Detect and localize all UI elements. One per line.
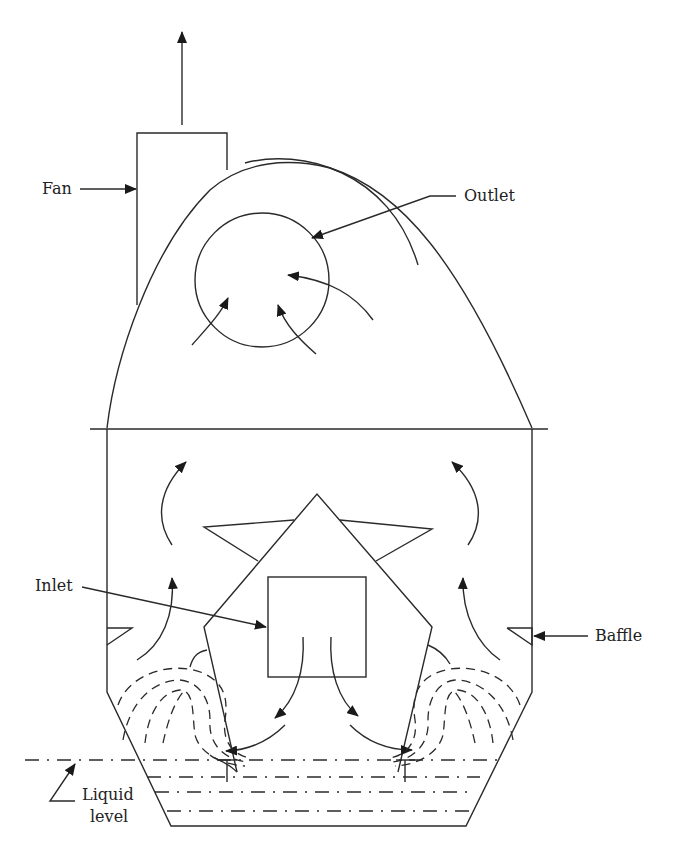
inlet-label: Inlet — [35, 577, 73, 595]
left-nozzle — [218, 760, 237, 782]
scrubber-diagram — [0, 0, 675, 859]
lower-vessel — [107, 429, 532, 826]
left-flap — [190, 650, 207, 667]
right-baffle — [507, 628, 532, 645]
right-vortex-dashed — [390, 668, 520, 766]
right-flap — [428, 645, 450, 664]
left-baffle — [107, 628, 132, 645]
inlet-pointer-arrow-icon — [82, 587, 266, 627]
outlet-label: Outlet — [464, 187, 515, 205]
outlet-circle — [195, 213, 329, 347]
inlet-hood — [204, 494, 432, 772]
liquid-level-label-line1: Liquid — [82, 786, 134, 804]
liquid-level-label-line2: level — [90, 808, 128, 826]
fan-label: Fan — [42, 180, 72, 198]
rising-flow-arrows-icon — [137, 462, 500, 660]
baffle-label: Baffle — [595, 627, 642, 645]
inlet-duct — [268, 577, 366, 677]
liquid-level-pointer-arrow-icon — [50, 764, 75, 801]
outlet-flow-arrows-icon — [192, 275, 373, 354]
outlet-pointer-arrow-icon — [312, 196, 456, 238]
inlet-flow-arrows-icon — [226, 637, 412, 751]
